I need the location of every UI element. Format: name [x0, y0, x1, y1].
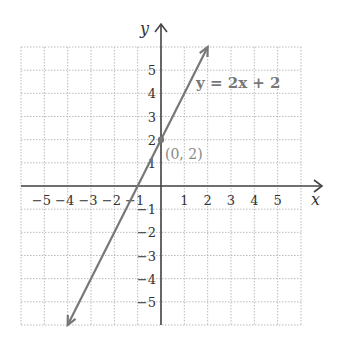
y-tick-label: −3 [137, 249, 156, 264]
y-tick-label: −5 [137, 295, 156, 310]
x-tick-label: 4 [250, 193, 258, 208]
y-tick-label: 5 [148, 63, 156, 78]
equation-label: y = 2x + 2 [195, 74, 281, 92]
y-tick-label: −4 [137, 272, 156, 287]
y-tick-label: −1 [137, 202, 156, 217]
x-tick-label: 2 [204, 193, 212, 208]
x-tick-label: 5 [274, 193, 282, 208]
x-tick-label: −2 [102, 193, 121, 208]
y-tick-label: 3 [148, 110, 156, 125]
x-tick-label: 3 [227, 193, 235, 208]
coordinate-plane: −5−4−3−2−112345−5−4−3−2−112345 x y y = 2… [0, 0, 341, 346]
y-tick-label: 4 [148, 86, 156, 101]
x-tick-label: 1 [180, 193, 188, 208]
y-tick-label: 2 [148, 133, 156, 148]
y-tick-label: −2 [137, 225, 156, 240]
point-label: (0, 2) [165, 146, 203, 162]
x-tick-label: −4 [55, 193, 74, 208]
axes [21, 24, 322, 325]
point-marker [158, 136, 164, 142]
x-axis-label: x [311, 190, 320, 209]
x-tick-label: −3 [78, 193, 97, 208]
y-axis-label: y [139, 19, 150, 38]
x-tick-label: −5 [32, 193, 51, 208]
